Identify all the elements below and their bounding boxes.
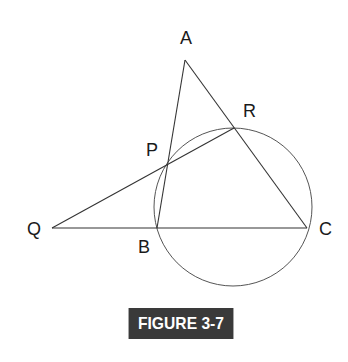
label-b: B [138,237,150,257]
label-r: R [243,101,256,121]
label-c: C [319,219,332,239]
label-p: P [146,140,158,160]
label-q: Q [27,219,41,239]
segment-ac [185,60,307,228]
segment-qr [52,128,234,228]
circle-prbc [154,128,312,286]
segment-ab [157,60,185,228]
figure-caption: FIGURE 3-7 [129,308,234,339]
label-a: A [180,28,192,48]
